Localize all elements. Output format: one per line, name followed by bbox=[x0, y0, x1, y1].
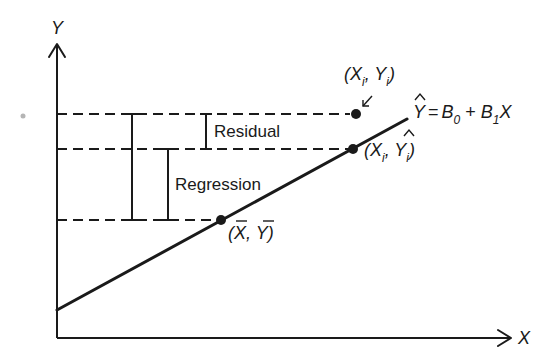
mean-point-label: (X, Y) bbox=[228, 221, 274, 243]
y-axis-label: Y bbox=[51, 18, 65, 38]
residual-label: Residual bbox=[214, 122, 280, 141]
svg-text:Y=B0+B1X: Y=B0+B1X bbox=[413, 102, 512, 127]
svg-text:(Xi, Yi): (Xi, Yi) bbox=[344, 64, 395, 89]
regression-diagram: Y X Residual Regression (Xi, Yi) bbox=[0, 0, 558, 363]
predicted-point-label: (Xi, Yi) bbox=[364, 130, 415, 165]
regression-label: Regression bbox=[175, 175, 261, 194]
observed-point bbox=[351, 109, 361, 119]
y-axis: Y bbox=[49, 18, 65, 338]
scan-smudge bbox=[21, 114, 26, 119]
x-axis-label: X bbox=[517, 328, 531, 348]
reference-lines bbox=[57, 114, 350, 220]
hat-symbol bbox=[404, 130, 414, 136]
x-axis: X bbox=[57, 328, 531, 348]
residual-bracket bbox=[200, 114, 212, 149]
predicted-point bbox=[348, 144, 358, 154]
mean-point bbox=[216, 215, 226, 225]
regression-bracket bbox=[162, 149, 174, 220]
regression-equation: Y=B0+B1X bbox=[413, 94, 512, 127]
hat-symbol bbox=[415, 94, 425, 100]
total-deviation-bracket bbox=[126, 114, 138, 220]
observed-point-label: (Xi, Yi) bbox=[344, 64, 395, 106]
pointer-arrow-icon bbox=[363, 96, 372, 106]
svg-text:(Xi, Yi): (Xi, Yi) bbox=[364, 140, 415, 165]
svg-text:(X, Y): (X, Y) bbox=[228, 223, 274, 243]
